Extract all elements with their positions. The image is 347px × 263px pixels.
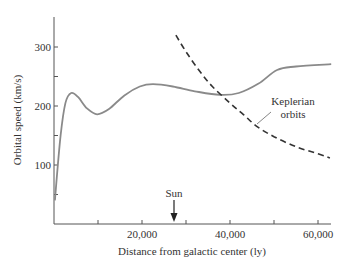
y-axis-title: Orbital speed (km/s) [11, 74, 24, 165]
sun-label: Sun [165, 187, 183, 199]
sun-arrow-head-icon [171, 213, 178, 222]
x-ticks: 20,00040,00060,000 [98, 220, 334, 240]
keplerian-annotation: Keplerian orbits [257, 95, 315, 124]
x-tick-label: 20,000 [127, 228, 158, 240]
y-tick-label: 200 [35, 100, 52, 112]
observed-rotation-curve [55, 64, 331, 200]
sun-annotation: Sun [165, 187, 183, 222]
x-tick-label: 40,000 [215, 228, 246, 240]
rotation-curve-chart: 20,00040,00060,000 100200300 Distance fr… [0, 0, 347, 263]
keplerian-leader-line [257, 112, 271, 124]
x-axis-title: Distance from galactic center (ly) [118, 245, 266, 258]
y-tick-label: 100 [35, 159, 52, 171]
y-tick-label: 300 [35, 41, 52, 53]
axes [54, 17, 331, 224]
keplerian-label-line1: Keplerian [271, 95, 315, 107]
keplerian-label-line2: orbits [280, 108, 305, 120]
x-tick-label: 60,000 [303, 228, 334, 240]
